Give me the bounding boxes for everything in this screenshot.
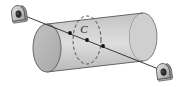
cylinder-left-cap-face bbox=[33, 24, 61, 72]
center-point bbox=[85, 38, 89, 42]
entry-point bbox=[68, 31, 72, 35]
exit-point bbox=[101, 44, 105, 48]
cross-section-label-C: C bbox=[80, 23, 88, 35]
figure-container: C bbox=[0, 0, 183, 87]
cylinder-diagram-svg: C bbox=[0, 0, 183, 87]
cylinder-right-cap bbox=[129, 13, 157, 61]
